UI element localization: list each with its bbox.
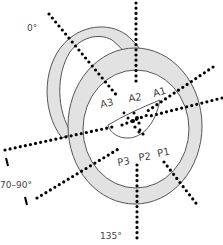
label-p3: P3 <box>116 155 130 168</box>
angle-label-70-90: 70–90° <box>0 180 32 190</box>
valve-orientation-diagram: 0° 70–90° 135° A3 A2 A1 P3 P2 P1 <box>0 0 223 245</box>
label-a1: A1 <box>152 85 168 99</box>
angle-label-135: 135° <box>100 231 122 241</box>
label-a3: A3 <box>99 96 114 110</box>
coaptation-arcs <box>108 100 160 138</box>
label-p1: P1 <box>156 146 170 159</box>
label-a2: A2 <box>128 91 143 104</box>
label-p2: P2 <box>138 150 152 163</box>
angle-label-0: 0° <box>27 23 37 33</box>
